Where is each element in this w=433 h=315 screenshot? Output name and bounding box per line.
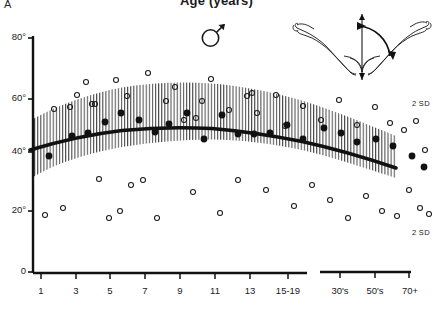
plot-area [0, 0, 433, 315]
xtick-label-70plus: 70+ [396, 285, 424, 296]
xtick-label-1: 1 [31, 285, 51, 296]
ytick-label-80: 80° [0, 31, 26, 42]
chart-root: A Age (years) [0, 0, 433, 315]
ytick-label-60: 60° [0, 92, 26, 103]
ytick-label-20: 20° [0, 204, 26, 215]
xtick-label-11: 11 [205, 285, 225, 296]
xtick-label-9: 9 [170, 285, 190, 296]
xtick-label-50s: 50's [361, 285, 389, 296]
xtick-label-5: 5 [100, 285, 120, 296]
sd-label-upper: 2 SD [412, 99, 430, 108]
ytick-label-40: 40° [0, 145, 26, 156]
xtick-label-15-19: 15-19 [268, 285, 308, 296]
xtick-label-3: 3 [66, 285, 86, 296]
xtick-label-13: 13 [240, 285, 260, 296]
xtick-label-7: 7 [135, 285, 155, 296]
xtick-label-30s: 30's [326, 285, 354, 296]
sd-label-lower: 2 SD [412, 228, 430, 237]
ytick-label-0: 0 [0, 265, 26, 276]
